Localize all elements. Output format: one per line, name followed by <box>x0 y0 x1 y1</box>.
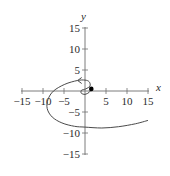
start-point-marker <box>89 87 94 92</box>
y-tick-label: 15 <box>69 22 81 34</box>
spiral-chart: −15−10−55101515105−5−10−15 x y <box>0 0 170 176</box>
y-tick-label: −10 <box>63 127 81 139</box>
y-axis-label: y <box>80 10 86 22</box>
x-tick-label: 10 <box>122 95 134 107</box>
x-axis-label: x <box>155 81 161 93</box>
y-tick-label: 5 <box>75 64 81 76</box>
x-tick-label: 5 <box>103 95 109 107</box>
y-tick-label: 10 <box>69 43 81 55</box>
y-tick-label: −15 <box>63 148 81 160</box>
x-tick-label: 15 <box>143 95 155 107</box>
x-tick-label: −15 <box>13 95 31 107</box>
y-tick-label: −5 <box>68 106 80 118</box>
axes <box>21 27 149 155</box>
